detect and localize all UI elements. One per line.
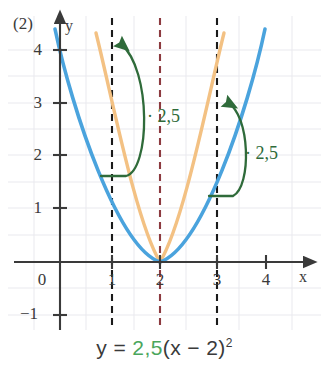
figure-number-label: (2) bbox=[13, 14, 33, 34]
y-axis-label: y bbox=[65, 17, 73, 35]
y-tick-label-2: 2 bbox=[16, 145, 42, 165]
y-tick-label-3: 3 bbox=[16, 93, 42, 113]
equation-lhs: y bbox=[96, 336, 107, 359]
equation-coefficient: 2,5 bbox=[132, 336, 162, 359]
annotation-label-left: · 2,5 bbox=[147, 106, 180, 127]
equation-body: (x − 2) bbox=[163, 336, 226, 359]
equation-caption: y = 2,5(x − 2)2 bbox=[0, 336, 329, 360]
x-tick-label-0: 0 bbox=[31, 270, 53, 290]
equation-exponent: 2 bbox=[226, 336, 233, 350]
y-tick-label-neg1: −1 bbox=[12, 304, 38, 324]
y-tick-label-4: 4 bbox=[16, 40, 42, 60]
x-axis-label: x bbox=[299, 268, 307, 286]
x-tick-label-4: 4 bbox=[255, 270, 277, 290]
equation-equals: = bbox=[113, 336, 126, 359]
annotation-label-right: · 2,5 bbox=[245, 143, 278, 164]
annotation-arrow-left bbox=[101, 44, 144, 176]
x-tick-label-2: 2 bbox=[149, 270, 171, 290]
parabola-graph bbox=[0, 0, 329, 379]
x-tick-label-3: 3 bbox=[206, 270, 228, 290]
y-tick-label-1: 1 bbox=[16, 198, 42, 218]
x-tick-label-1: 1 bbox=[101, 270, 123, 290]
